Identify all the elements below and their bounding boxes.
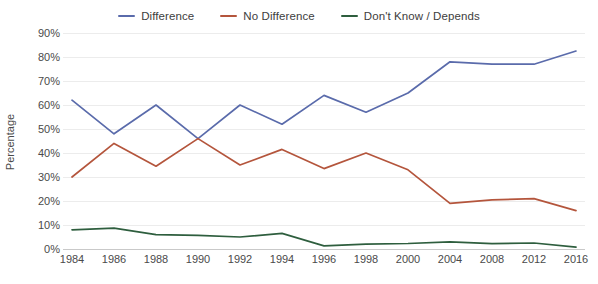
series-line-don-t-know-depends <box>72 228 576 247</box>
x-axis-tick-label: 2000 <box>396 253 420 265</box>
legend-swatch-dont-know <box>341 15 358 18</box>
y-axis-tick-label: 0% <box>44 243 60 255</box>
legend-item-label: Don't Know / Depends <box>364 10 480 22</box>
legend-item-label: Difference <box>141 10 194 22</box>
plot-area <box>63 33 585 249</box>
y-axis-tick-label: 70% <box>38 75 60 87</box>
x-axis-tick-label: 1984 <box>60 253 84 265</box>
series-line-difference <box>72 51 576 139</box>
line-chart: DifferenceNo DifferenceDon't Know / Depe… <box>0 0 598 284</box>
x-axis-tick-labels: 1984198619881990199219941996199820002004… <box>63 253 585 273</box>
y-axis-tick-label: 50% <box>38 123 60 135</box>
x-axis-tick-label: 1996 <box>312 253 336 265</box>
legend-swatch-difference <box>118 15 135 18</box>
series-line-no-difference <box>72 139 576 211</box>
x-axis-tick-label: 2004 <box>438 253 462 265</box>
x-axis-tick-label: 1990 <box>186 253 210 265</box>
y-axis-tick-label: 20% <box>38 195 60 207</box>
x-axis-tick-label: 1998 <box>354 253 378 265</box>
y-axis-tick-label: 60% <box>38 99 60 111</box>
series-lines <box>63 33 585 249</box>
legend-item-label: No Difference <box>243 10 314 22</box>
legend-item[interactable]: Don't Know / Depends <box>341 10 480 22</box>
y-axis-title: Percentage <box>2 0 18 284</box>
y-axis-title-label: Percentage <box>4 114 16 170</box>
x-axis-tick-label: 2012 <box>522 253 546 265</box>
x-axis-tick-label: 2016 <box>564 253 588 265</box>
y-axis-tick-label: 80% <box>38 51 60 63</box>
legend-item[interactable]: No Difference <box>220 10 314 22</box>
x-axis-tick-label: 1986 <box>102 253 126 265</box>
y-axis-tick-label: 10% <box>38 219 60 231</box>
y-axis-tick-label: 30% <box>38 171 60 183</box>
y-axis-tick-label: 40% <box>38 147 60 159</box>
y-axis-tick-label: 90% <box>38 27 60 39</box>
y-axis-tick-labels: 90%80%70%60%50%40%30%20%10%0% <box>18 33 60 249</box>
x-axis-tick-label: 1994 <box>270 253 294 265</box>
legend-swatch-no-difference <box>220 15 237 18</box>
x-axis-tick-label: 1988 <box>144 253 168 265</box>
chart-legend: DifferenceNo DifferenceDon't Know / Depe… <box>0 4 598 28</box>
x-axis-tick-label: 1992 <box>228 253 252 265</box>
x-axis-tick-label: 2008 <box>480 253 504 265</box>
legend-item[interactable]: Difference <box>118 10 194 22</box>
gridline <box>63 249 585 250</box>
